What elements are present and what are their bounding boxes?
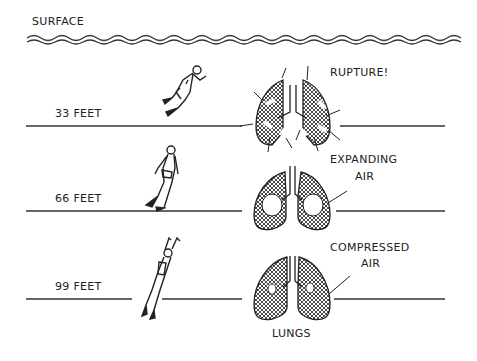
lungs-label: LUNGS <box>272 327 311 340</box>
diver-icon-33ft <box>163 66 206 116</box>
expanding-lungs-illustration <box>254 166 347 230</box>
compressed-lungs-illustration <box>254 256 350 320</box>
depth-label-99ft: 99 FEET <box>55 280 102 293</box>
diving-lung-diagram: SURFACE 33 FEET 66 FEET 99 FEET RUPTURE!… <box>0 0 477 361</box>
rupture-callout: RUPTURE! <box>330 66 389 79</box>
depth-label-33ft: 33 FEET <box>55 107 102 120</box>
expanding-callout-line2: AIR <box>355 170 374 183</box>
diver-icon-99ft <box>142 238 180 319</box>
depth-label-66ft: 66 FEET <box>55 192 102 205</box>
expanding-callout-line1: EXPANDING <box>330 153 397 166</box>
compressed-callout-line1: COMPRESSED <box>330 241 409 254</box>
water-surface-waves <box>27 36 461 45</box>
ruptured-lungs-illustration <box>240 66 340 152</box>
surface-label: SURFACE <box>32 15 84 28</box>
compressed-callout-line2: AIR <box>361 257 380 270</box>
diver-icon-66ft <box>146 146 178 211</box>
depth-lines <box>26 126 445 299</box>
diagram-artwork <box>0 0 477 361</box>
